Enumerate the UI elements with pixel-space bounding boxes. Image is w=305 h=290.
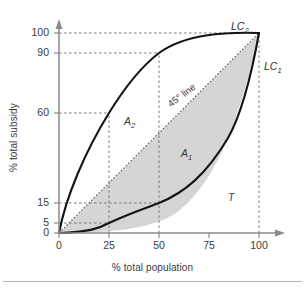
x-axis-arrow-icon xyxy=(275,230,285,237)
curve-label-lc2-sub: 2 xyxy=(244,26,248,35)
y-tick-label-5: 5 xyxy=(19,216,49,228)
y-tick-label-100: 100 xyxy=(19,26,49,38)
x-tick-label-100: 100 xyxy=(244,239,274,251)
region-label-a1-text: A xyxy=(181,147,188,159)
region-label-a2: A2 xyxy=(124,115,135,130)
x-tick-label-50: 50 xyxy=(144,239,174,251)
region-label-t: T xyxy=(228,191,234,203)
y-tick-label-60: 60 xyxy=(19,106,49,118)
x-axis-title: % total population xyxy=(0,262,305,273)
figure-bottom-divider xyxy=(3,281,302,282)
curve-label-lc1-text: LC xyxy=(264,60,277,72)
curve-label-lc1: LC1 xyxy=(264,60,282,75)
region-label-a1-sub: 1 xyxy=(188,153,192,162)
y-tick-label-90: 90 xyxy=(19,46,49,58)
x-tick-label-75: 75 xyxy=(194,239,224,251)
region-label-a2-text: A xyxy=(124,115,131,127)
y-axis-title: % total subsidy xyxy=(8,63,19,213)
curve-label-lc1-sub: 1 xyxy=(277,66,281,75)
y-tick-label-15: 15 xyxy=(19,196,49,208)
curve-label-lc2: LC2 xyxy=(231,20,249,35)
curve-label-lc2-text: LC xyxy=(231,20,244,32)
x-tick-label-25: 25 xyxy=(94,239,124,251)
y-axis-arrow-icon xyxy=(56,19,63,29)
region-label-a1: A1 xyxy=(181,147,192,162)
x-tick-label-0: 0 xyxy=(44,239,74,251)
lorenz-curve-figure: 0 25 50 75 100 0 5 15 60 90 100 % total … xyxy=(0,0,305,290)
region-label-a2-sub: 2 xyxy=(131,121,135,130)
